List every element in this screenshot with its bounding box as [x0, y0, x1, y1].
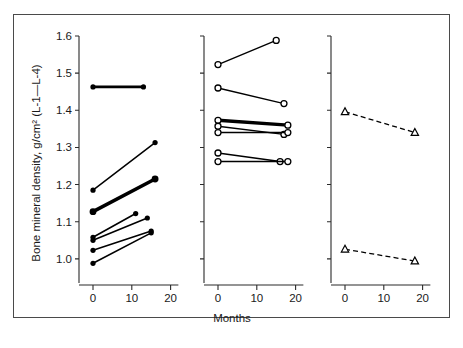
x-tick-label: 10 — [250, 292, 263, 304]
y-tick-label: 1.3 — [56, 141, 72, 153]
panel-left: 1.01.11.21.31.41.51.601020 — [56, 30, 178, 304]
y-axis-panel-middle — [200, 36, 204, 283]
data-point-triangle — [341, 108, 348, 115]
series-line — [345, 112, 415, 133]
series-line — [218, 40, 276, 64]
panel-middle: 01020 — [200, 36, 303, 304]
panel-right: 01020 — [327, 36, 430, 304]
data-point-triangle — [341, 245, 348, 252]
y-axis-panel-right — [327, 36, 331, 283]
data-point-filled — [145, 215, 150, 220]
x-tick-label: 0 — [342, 292, 348, 304]
series-line — [218, 120, 288, 125]
series-line — [345, 249, 415, 261]
data-point-open — [215, 85, 221, 91]
y-tick-label: 1.1 — [56, 216, 72, 228]
data-point-filled — [90, 208, 97, 215]
y-tick-label: 1.4 — [56, 104, 73, 116]
data-point-open — [285, 122, 291, 128]
y-tick-label: 1.0 — [56, 253, 72, 265]
figure-root: 1.01.11.21.31.41.51.6010200102001020Bone… — [0, 0, 463, 348]
y-tick-label: 1.2 — [56, 179, 72, 191]
data-point-open — [215, 62, 221, 68]
data-point-open — [285, 159, 291, 165]
data-point-open — [281, 101, 287, 107]
x-tick-label: 0 — [90, 292, 96, 304]
data-point-filled — [90, 84, 95, 89]
x-tick-label: 20 — [289, 292, 302, 304]
series-line — [218, 88, 284, 104]
x-tick-label: 0 — [215, 292, 221, 304]
x-tick-label: 10 — [125, 292, 138, 304]
data-point-filled — [90, 248, 95, 253]
x-tick-label: 10 — [377, 292, 390, 304]
data-point-open — [215, 130, 221, 136]
data-point-filled — [141, 84, 146, 89]
y-tick-label: 1.5 — [56, 67, 72, 79]
data-point-open — [273, 37, 279, 43]
data-point-open — [215, 123, 221, 129]
x-axis-panel-right — [331, 285, 430, 290]
x-axis-title: Months — [213, 312, 251, 324]
series-line — [218, 153, 280, 162]
data-point-filled — [133, 211, 138, 216]
data-point-open — [215, 150, 221, 156]
x-tick-label: 20 — [164, 292, 177, 304]
data-point-filled — [90, 188, 95, 193]
data-point-filled — [149, 230, 154, 235]
y-axis-title: Bone mineral density, g/cm² (L-1—L-4) — [30, 64, 42, 261]
y-axis-panel-left — [75, 36, 79, 283]
y-tick-label: 1.6 — [56, 30, 72, 42]
bone-density-chart: 1.01.11.21.31.41.51.6010200102001020Bone… — [0, 0, 463, 348]
data-point-open — [215, 159, 221, 165]
data-point-open — [215, 117, 221, 123]
x-axis-panel-middle — [204, 285, 303, 290]
x-axis-panel-left — [79, 285, 178, 290]
data-point-filled — [152, 176, 159, 183]
data-point-filled — [90, 238, 95, 243]
data-point-open — [285, 130, 291, 136]
data-point-filled — [152, 140, 157, 145]
data-point-filled — [90, 261, 95, 266]
x-tick-label: 20 — [416, 292, 429, 304]
